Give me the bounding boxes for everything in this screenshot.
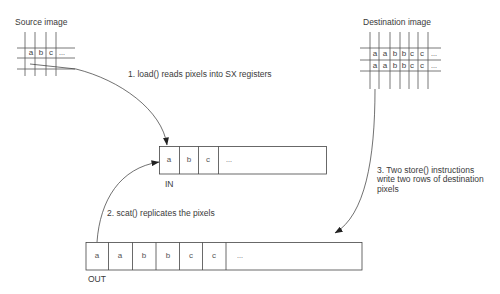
destination-cell: a — [383, 49, 387, 59]
in-register-cell: c — [206, 155, 210, 165]
source-cell: b — [39, 48, 43, 58]
out-register-label: OUT — [88, 274, 106, 284]
destination-cell: a — [373, 49, 377, 59]
destination-cell: ... — [431, 49, 437, 59]
destination-cell: a — [383, 61, 387, 71]
source-cell: ... — [59, 48, 65, 58]
source-cell: a — [29, 48, 33, 58]
out-register-cell: b — [166, 251, 170, 261]
source-grid — [17, 32, 75, 76]
destination-cell: b — [393, 61, 397, 71]
destination-cell: c — [420, 49, 424, 59]
out-register-cell: a — [95, 251, 99, 261]
out-register-cell: a — [118, 251, 122, 261]
destination-cell: b — [402, 49, 406, 59]
in-register-cell: a — [167, 155, 171, 165]
step3-label-line3: pixels — [377, 184, 399, 194]
step3-label-line2: write two rows of destination — [377, 174, 484, 184]
in-register-box — [160, 147, 327, 175]
step2-label: 2. scat() replicates the pixels — [107, 208, 215, 218]
in-register-cell: b — [187, 155, 191, 165]
destination-cell: c — [410, 49, 414, 59]
out-register-cell: b — [142, 251, 146, 261]
scat-arrow — [97, 162, 159, 242]
out-register-box — [86, 243, 362, 271]
diagram-graphics — [0, 0, 500, 294]
in-register-label: IN — [165, 179, 174, 189]
destination-image-title: Destination image — [363, 17, 431, 27]
out-register-cell: c — [212, 251, 216, 261]
diagram-canvas: Source image Destination image a b c ...… — [0, 0, 500, 294]
destination-cell: c — [420, 61, 424, 71]
destination-cell: a — [373, 61, 377, 71]
destination-cell: b — [393, 49, 397, 59]
destination-cell: b — [402, 61, 406, 71]
step1-label: 1. load() reads pixels into SX registers — [128, 69, 272, 79]
source-cell: c — [49, 48, 53, 58]
source-image-title: Source image — [15, 17, 67, 27]
destination-cell: c — [410, 61, 414, 71]
out-register-cell: ... — [237, 251, 243, 261]
store-arrow — [335, 89, 375, 233]
in-register-cell: ... — [226, 155, 232, 165]
out-register-cell: c — [189, 251, 193, 261]
destination-cell: ... — [431, 61, 437, 71]
